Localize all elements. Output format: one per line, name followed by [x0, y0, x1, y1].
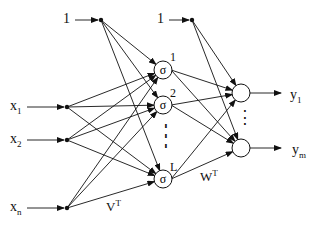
output-ellipsis: ⋮ [237, 107, 253, 129]
input-label: x2 [10, 132, 22, 151]
hidden-ellipsis-text: ⋮ [158, 118, 174, 150]
hidden-neuron-index: 2 [170, 86, 176, 100]
input-label-text: x [10, 199, 17, 214]
input-node-dot [65, 138, 69, 142]
output-label-subscript: m [299, 150, 306, 160]
input-label: x1 [10, 99, 22, 118]
input-label-subscript: n [17, 207, 22, 217]
input-to-hidden-edge [67, 112, 157, 208]
input-to-hidden-edge [67, 105, 154, 107]
input-label: xn [10, 200, 22, 219]
weight-matrix-v-label-superscript: T [115, 198, 121, 208]
input-node-dot [65, 105, 69, 109]
input-label-subscript: 2 [17, 139, 22, 149]
hidden-neuron-index-text: L [170, 160, 177, 174]
input-to-hidden-edge [67, 107, 156, 174]
input-to-hidden-edge [67, 75, 156, 140]
sigma-activation-symbol: σ [160, 63, 167, 77]
output-label: ym [292, 143, 306, 162]
network-edges: σσσ [0, 0, 315, 231]
bias-node-dot [99, 18, 103, 22]
hidden-neuron-index-text: 1 [170, 50, 176, 64]
hidden-neuron-index: L [170, 160, 177, 174]
weight-matrix-v-label-text: V [106, 199, 115, 214]
sigma-activation-symbol: σ [160, 98, 167, 112]
bias-label-right: 1 [157, 12, 164, 26]
bias-node-dot [190, 18, 194, 22]
bias-label-left: 1 [63, 12, 70, 26]
bias-label-right-text: 1 [157, 11, 164, 26]
bias-to-output-edge [192, 20, 236, 86]
sigma-activation-symbol: σ [160, 172, 167, 186]
output-label-text: y [290, 87, 297, 102]
weight-matrix-w-label-superscript: T [212, 168, 218, 178]
hidden-neuron-index: 1 [170, 50, 176, 64]
output-neuron [232, 84, 250, 102]
output-neuron [232, 139, 250, 157]
input-label-text: x [10, 131, 17, 146]
weight-matrix-v-label: VT [106, 196, 121, 214]
output-ellipsis-text: ⋮ [237, 107, 253, 127]
hidden-neuron-index-text: 2 [170, 86, 176, 100]
output-label: y1 [290, 88, 302, 107]
output-label-subscript: 1 [297, 95, 302, 105]
input-node-dot [65, 206, 69, 210]
output-label-text: y [292, 142, 299, 157]
hidden-to-output-edge [171, 105, 233, 143]
input-to-hidden-edge [67, 73, 155, 107]
bias-label-left-text: 1 [63, 11, 70, 26]
input-label-text: x [10, 98, 17, 113]
hidden-ellipsis: ⋮ [158, 118, 174, 152]
input-to-hidden-edge [67, 77, 158, 208]
bias-to-hidden-edge [101, 20, 160, 171]
weight-matrix-w-label: WT [200, 166, 218, 184]
weight-matrix-w-label-text: W [200, 169, 212, 184]
neural-network-diagram: σσσ x1x2xn1112Ly1ym⋮⋮VTWT [0, 0, 315, 231]
input-label-subscript: 1 [17, 106, 22, 116]
